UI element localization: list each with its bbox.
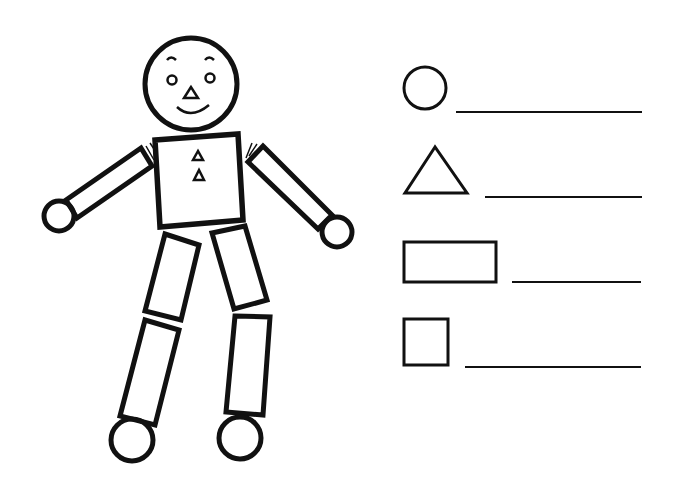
nose-triangle (184, 87, 198, 98)
right-eye-circle (206, 74, 215, 83)
legend-rectangle-shape (404, 242, 496, 282)
robot-figure (44, 38, 352, 461)
robot-torso (155, 134, 243, 227)
robot-head (145, 38, 237, 130)
robot-left-leg (111, 234, 199, 461)
left-eyebrow (167, 58, 176, 61)
legend-triangle-shape (405, 147, 467, 193)
right-shin-rectangle (226, 316, 270, 415)
right-eyebrow (205, 58, 214, 61)
shape-legend (404, 67, 642, 367)
legend-row-rectangle (404, 242, 641, 282)
right-hand-circle (322, 217, 352, 247)
mouth-smile (177, 105, 209, 113)
left-hand-circle (44, 201, 74, 231)
button-triangle (193, 151, 203, 160)
button-triangle (194, 170, 204, 180)
left-arm-rectangle (66, 148, 152, 218)
left-shin-rectangle (120, 320, 179, 425)
right-foot-circle (219, 417, 261, 459)
legend-square-shape (404, 319, 448, 365)
left-foot-circle (111, 419, 153, 461)
worksheet-canvas (0, 0, 674, 482)
left-eye-circle (168, 76, 177, 85)
robot-right-arm (246, 143, 352, 247)
legend-circle-shape (404, 67, 446, 109)
legend-row-circle (404, 67, 642, 112)
head-circle (145, 38, 237, 130)
right-arm-rectangle (248, 146, 332, 229)
legend-row-square (404, 319, 641, 367)
right-thigh-rectangle (212, 226, 267, 309)
robot-right-leg (212, 226, 270, 459)
robot-left-arm (44, 143, 156, 231)
legend-row-triangle (405, 147, 642, 197)
left-thigh-rectangle (145, 234, 199, 320)
